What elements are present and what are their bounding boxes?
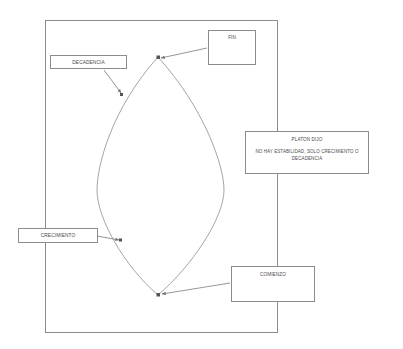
node-fin-label: FIN (209, 35, 255, 40)
connector-crecimiento (97, 236, 119, 240)
connector-decadencia (104, 70, 121, 93)
node-platon-quote: NO HAY ESTABILIDAD, SOLO CRECIMIENTO O D… (243, 149, 371, 162)
lens-top-vertex-marker (157, 56, 161, 60)
node-platon[interactable]: PLATON DIJO NO HAY ESTABILIDAD, SOLO CRE… (245, 131, 369, 174)
connector-decadencia-endpoint (120, 93, 123, 96)
node-fin[interactable]: FIN (208, 30, 256, 65)
connector-fin (161, 48, 207, 58)
connector-comienzo-endpoint (157, 293, 161, 297)
node-crecimiento-label: CRECIMIENTO (19, 233, 97, 238)
lens-left-arc (97, 57, 158, 295)
node-comienzo[interactable]: COMIENZO (231, 266, 315, 302)
connector-crecimiento-endpoint (119, 239, 122, 242)
diagram-vector-layer (0, 0, 403, 349)
node-decadencia[interactable]: DECADENCIA (50, 55, 127, 69)
lens-right-arc (158, 57, 224, 295)
diagram-canvas: FIN DECADENCIA PLATON DIJO NO HAY ESTABI… (0, 0, 403, 349)
node-platon-label: PLATON DIJO (246, 137, 368, 142)
node-crecimiento[interactable]: CRECIMIENTO (18, 228, 98, 243)
node-decadencia-label: DECADENCIA (51, 60, 126, 65)
connector-comienzo (162, 283, 230, 294)
node-comienzo-label: COMIENZO (232, 272, 314, 277)
